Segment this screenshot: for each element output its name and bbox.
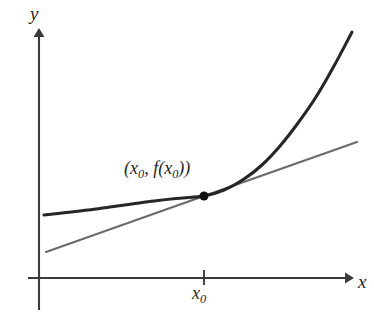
- y-axis: [34, 28, 45, 310]
- up-arrow-icon: [34, 28, 45, 37]
- x0-tick-label-symbol: x: [192, 283, 200, 303]
- y-axis-label: y: [30, 4, 38, 23]
- x-axis: [28, 273, 354, 284]
- comma-separator: ,: [144, 158, 153, 178]
- x0-tick-label-subscript: 0: [200, 292, 206, 306]
- point-of-tangency-dot: [200, 192, 209, 201]
- x-axis-label: x: [358, 272, 366, 291]
- right-arrow-icon: [345, 273, 354, 284]
- function-curve: [44, 32, 352, 215]
- close-paren: ): [184, 158, 190, 178]
- inner-x-symbol: x: [164, 158, 172, 178]
- x-symbol: x: [130, 158, 138, 178]
- tangency-point-label: (x0, f(x0)): [124, 159, 190, 180]
- tangent-line-figure: y x x0 (x0, f(x0)): [0, 0, 374, 318]
- x0-tick-label: x0: [192, 284, 206, 305]
